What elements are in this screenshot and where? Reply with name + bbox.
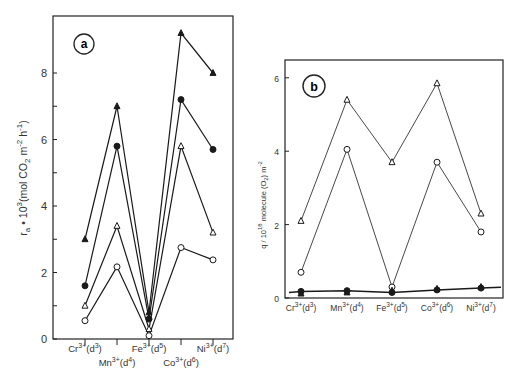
y-tick-label: 2 (274, 221, 279, 231)
open-triangle-marker (434, 80, 440, 86)
open-circle-marker (478, 229, 484, 235)
filled-triangle-marker (178, 30, 184, 36)
open-circle-marker (82, 318, 88, 324)
filled-circle-marker (210, 146, 216, 152)
open-circle-marker (178, 245, 184, 251)
x-tick-label: Mn3+(d4) (99, 356, 136, 368)
open-circle-marker (344, 146, 350, 152)
panel-a: 02468Cr3+(d3)Mn3+(d4)Fe3+(d5)Co3+(d6)Ni3… (15, 16, 233, 368)
x-tick-label: Ni3+(d7) (466, 301, 496, 313)
open-triangle-marker (210, 229, 216, 235)
open-circle-marker (434, 159, 440, 165)
series-line (85, 33, 213, 312)
open-triangle-marker (344, 96, 350, 102)
filled-circle-marker (114, 143, 120, 149)
series-line (85, 100, 213, 319)
panel-label: b (310, 80, 318, 94)
y-axis-label: ra • 103(mol CO2 m-2 h-1) (15, 120, 32, 235)
panel-b: 0246Cr3+(d3)Mn3+(d4)Fe3+(d5)Co3+(d6)Ni3+… (257, 60, 503, 313)
y-tick-label: 2 (41, 267, 47, 279)
open-triangle-marker (114, 223, 120, 229)
y-tick-label: 4 (41, 200, 47, 212)
y-axis-label: q / 1018 molecule (O2) m-2 (257, 161, 269, 249)
series-line (301, 149, 481, 287)
filled-circle-marker (178, 97, 184, 103)
panel-label: a (81, 37, 88, 51)
series-line (85, 146, 213, 329)
x-tick-label: Cr3+(d3) (68, 342, 102, 354)
open-triangle-marker (82, 302, 88, 308)
open-triangle-marker (298, 217, 304, 223)
filled-triangle-marker (82, 236, 88, 242)
x-tick-label: Fe3+(d5) (376, 301, 408, 313)
x-tick-label: Co3+(d6) (163, 356, 199, 368)
open-circle-marker (146, 333, 152, 339)
filled-circle-marker (82, 283, 88, 289)
x-tick-label: Mn3+(d4) (330, 301, 363, 313)
y-tick-label: 6 (274, 74, 279, 84)
y-tick-label: 6 (41, 134, 47, 146)
filled-triangle-marker (114, 103, 120, 109)
y-tick-label: 0 (274, 294, 279, 304)
y-tick-label: 4 (274, 147, 279, 157)
x-tick-label: Fe3+(d5) (132, 342, 167, 354)
open-circle-marker (298, 269, 304, 275)
x-tick-label: Cr3+(d3) (286, 301, 317, 313)
open-circle-marker (114, 264, 120, 270)
open-triangle-marker (178, 143, 184, 149)
y-tick-label: 8 (41, 67, 47, 79)
open-circle-marker (210, 257, 216, 263)
x-tick-label: Ni3+(d7) (197, 342, 230, 354)
x-tick-label: Co3+(d6) (421, 301, 453, 313)
open-triangle-marker (478, 210, 484, 216)
y-tick-label: 0 (41, 333, 47, 345)
filled-circle-marker (146, 316, 152, 322)
figure: 02468Cr3+(d3)Mn3+(d4)Fe3+(d5)Co3+(d6)Ni3… (0, 0, 521, 377)
